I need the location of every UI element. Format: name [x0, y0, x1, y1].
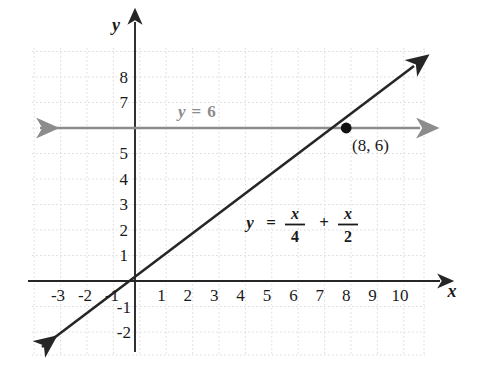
graph-figure: -3 -2 -1 1 2 3 4 5 6 7 8 9 10 8 7 5 4 3 … — [0, 0, 477, 378]
data-point-8-6 — [341, 123, 352, 134]
x-tick-9: 9 — [368, 286, 377, 305]
x-tick-4: 4 — [236, 286, 245, 305]
x-tick-minus-2: -2 — [78, 286, 92, 305]
x-tick-10: 10 — [392, 286, 409, 305]
svg-text:y=6: y=6 — [176, 102, 216, 121]
y-tick-5: 5 — [120, 144, 129, 163]
x-tick-labels: -3 -2 -1 1 2 3 4 5 6 7 8 9 10 — [51, 286, 409, 305]
equation-equals: = — [266, 213, 276, 232]
y-tick-1: 1 — [120, 246, 129, 265]
svg-text:y: y — [244, 213, 254, 232]
x-tick-minus-3: -3 — [51, 286, 65, 305]
x-axis-label: x — [447, 281, 457, 301]
x-tick-7: 7 — [316, 286, 325, 305]
y-tick-minus-1: -1 — [117, 298, 131, 317]
y-tick-2: 2 — [120, 221, 129, 240]
x-tick-6: 6 — [289, 286, 298, 305]
y-tick-3: 3 — [120, 195, 129, 214]
equation-term1-denominator: 4 — [291, 228, 299, 245]
equation-fraction-x-over-2: x 2 — [338, 205, 358, 245]
equation-term1-numerator: x — [290, 205, 299, 222]
y-tick-4: 4 — [120, 170, 129, 189]
y-equals-6-rhs: 6 — [207, 102, 216, 121]
y-tick-7: 7 — [120, 93, 129, 112]
annotation-equation: y = x 4 + x 2 — [244, 205, 358, 245]
x-tick-2: 2 — [184, 286, 193, 305]
equation-lhs: y — [244, 213, 254, 232]
x-tick-1: 1 — [157, 286, 166, 305]
y-equals-6-lhs: y — [176, 102, 186, 121]
equation-term2-numerator: x — [343, 205, 352, 222]
y-tick-8: 8 — [120, 68, 129, 87]
y-axis-label: y — [110, 15, 121, 35]
point-label-8-6: (8, 6) — [352, 136, 389, 155]
coordinate-plane-svg: -3 -2 -1 1 2 3 4 5 6 7 8 9 10 8 7 5 4 3 … — [0, 0, 477, 378]
x-tick-5: 5 — [263, 286, 272, 305]
equation-fraction-x-over-4: x 4 — [285, 205, 305, 245]
equation-plus: + — [319, 213, 329, 232]
equation-term2-denominator: 2 — [344, 228, 352, 245]
y-equals-6-equals: = — [192, 102, 202, 121]
series-line-y-equals-3x-over-4 — [42, 66, 414, 347]
x-tick-8: 8 — [342, 286, 351, 305]
y-tick-minus-2: -2 — [117, 323, 131, 342]
x-tick-3: 3 — [210, 286, 219, 305]
annotation-y-equals-6: y=6 — [176, 102, 216, 121]
